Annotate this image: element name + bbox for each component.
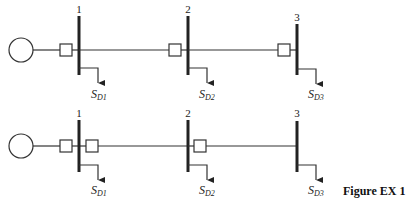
- bus-3-label: 3: [294, 11, 300, 23]
- load-1-label: SD1: [91, 87, 107, 102]
- bus-2-label: 2: [185, 107, 191, 119]
- breaker-icon: [169, 44, 181, 56]
- load-1-label: SD1: [91, 183, 107, 198]
- bus-1-label: 1: [76, 107, 82, 119]
- load-1-lead: [79, 165, 98, 180]
- load-2-lead: [188, 68, 207, 83]
- breaker-icon: [60, 140, 72, 152]
- bus-1-label: 1: [76, 3, 82, 15]
- load-2-label: SD2: [199, 87, 215, 102]
- load-3-label: SD3: [308, 87, 324, 102]
- breaker-icon: [86, 140, 98, 152]
- one-line-diagrams: 1 SD1 2 SD2 3 SD3 1 SD1: [0, 0, 414, 209]
- generator-icon: [9, 38, 33, 62]
- bus-3-label: 3: [294, 107, 300, 119]
- diagram-bottom: 1 SD1 2 SD2 3 SD3: [9, 107, 324, 198]
- figure-caption: Figure EX 1: [343, 184, 405, 198]
- breaker-icon: [278, 44, 290, 56]
- load-3-lead: [297, 69, 316, 84]
- load-2-lead: [188, 165, 207, 180]
- load-1-lead: [79, 68, 98, 83]
- breaker-icon: [194, 140, 206, 152]
- bus-2-label: 2: [185, 3, 191, 15]
- generator-icon: [9, 134, 33, 158]
- breaker-icon: [60, 44, 72, 56]
- load-3-lead: [297, 165, 316, 180]
- load-2-label: SD2: [199, 183, 215, 198]
- load-3-label: SD3: [308, 183, 324, 198]
- diagram-top: 1 SD1 2 SD2 3 SD3: [9, 3, 324, 102]
